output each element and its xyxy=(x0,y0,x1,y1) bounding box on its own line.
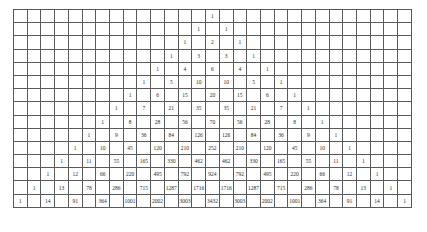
empty-cell xyxy=(41,155,55,168)
empty-cell xyxy=(356,141,370,154)
empty-cell xyxy=(274,23,288,36)
triangle-value-cell: 3 xyxy=(219,49,233,62)
empty-cell xyxy=(27,10,41,23)
triangle-value-cell: 924 xyxy=(206,168,220,181)
triangle-row: 121 xyxy=(14,36,412,49)
empty-cell xyxy=(55,115,69,128)
triangle-row: 14641 xyxy=(14,62,412,75)
empty-cell xyxy=(384,10,398,23)
empty-cell xyxy=(343,49,357,62)
empty-cell xyxy=(329,141,343,154)
empty-cell xyxy=(233,23,247,36)
empty-cell xyxy=(329,115,343,128)
triangle-value-cell: 35 xyxy=(192,102,206,115)
empty-cell xyxy=(343,36,357,49)
empty-cell xyxy=(398,155,412,168)
triangle-value-cell: 55 xyxy=(302,155,316,168)
empty-cell xyxy=(110,115,124,128)
empty-cell xyxy=(356,194,370,207)
triangle-value-cell: 1716 xyxy=(219,181,233,194)
empty-cell xyxy=(260,155,274,168)
empty-cell xyxy=(96,49,110,62)
triangle-value-cell: 1001 xyxy=(288,194,302,207)
empty-cell xyxy=(27,75,41,88)
empty-cell xyxy=(96,62,110,75)
triangle-value-cell: 715 xyxy=(137,181,151,194)
empty-cell xyxy=(302,89,316,102)
empty-cell xyxy=(370,128,384,141)
empty-cell xyxy=(343,23,357,36)
triangle-value-cell: 6 xyxy=(151,89,165,102)
triangle-value-cell: 1 xyxy=(68,141,82,154)
empty-cell xyxy=(233,75,247,88)
empty-cell xyxy=(260,128,274,141)
triangle-row: 11378286715128717161716128771528678131 xyxy=(14,181,412,194)
empty-cell xyxy=(288,181,302,194)
empty-cell xyxy=(302,62,316,75)
empty-cell xyxy=(137,141,151,154)
empty-cell xyxy=(41,10,55,23)
triangle-value-cell: 120 xyxy=(260,141,274,154)
triangle-value-cell: 11 xyxy=(329,155,343,168)
triangle-value-cell: 9 xyxy=(110,128,124,141)
empty-cell xyxy=(302,49,316,62)
empty-cell xyxy=(356,102,370,115)
triangle-value-cell: 1 xyxy=(178,36,192,49)
triangle-value-cell: 36 xyxy=(274,128,288,141)
triangle-value-cell: 1 xyxy=(315,115,329,128)
empty-cell xyxy=(370,102,384,115)
empty-cell xyxy=(356,168,370,181)
empty-cell xyxy=(96,23,110,36)
empty-cell xyxy=(27,102,41,115)
empty-cell xyxy=(302,75,316,88)
triangle-row: 1104512021025221012045101 xyxy=(14,141,412,154)
triangle-value-cell: 1 xyxy=(398,194,412,207)
empty-cell xyxy=(356,89,370,102)
empty-cell xyxy=(68,10,82,23)
empty-cell xyxy=(164,89,178,102)
empty-cell xyxy=(247,194,261,207)
empty-cell xyxy=(123,155,137,168)
empty-cell xyxy=(14,102,28,115)
empty-cell xyxy=(110,141,124,154)
pascal-triangle-grid: 1111211331146411510105116152015611721353… xyxy=(13,9,412,208)
empty-cell xyxy=(398,168,412,181)
empty-cell xyxy=(178,49,192,62)
empty-cell xyxy=(398,10,412,23)
empty-cell xyxy=(68,115,82,128)
empty-cell xyxy=(178,75,192,88)
empty-cell xyxy=(14,62,28,75)
empty-cell xyxy=(219,10,233,23)
empty-cell xyxy=(14,49,28,62)
empty-cell xyxy=(178,155,192,168)
empty-cell xyxy=(370,155,384,168)
empty-cell xyxy=(233,102,247,115)
empty-cell xyxy=(68,49,82,62)
triangle-value-cell: 1716 xyxy=(192,181,206,194)
empty-cell xyxy=(178,181,192,194)
empty-cell xyxy=(55,62,69,75)
empty-cell xyxy=(356,62,370,75)
triangle-value-cell: 10 xyxy=(192,75,206,88)
triangle-value-cell: 15 xyxy=(178,89,192,102)
empty-cell xyxy=(206,181,220,194)
empty-cell xyxy=(55,49,69,62)
triangle-row: 18285670562881 xyxy=(14,115,412,128)
triangle-value-cell: 1 xyxy=(329,128,343,141)
triangle-value-cell: 10 xyxy=(315,141,329,154)
triangle-value-cell: 66 xyxy=(315,168,329,181)
empty-cell xyxy=(219,141,233,154)
empty-cell xyxy=(398,181,412,194)
empty-cell xyxy=(137,23,151,36)
triangle-value-cell: 462 xyxy=(219,155,233,168)
triangle-row: 1 xyxy=(14,10,412,23)
triangle-value-cell: 1287 xyxy=(247,181,261,194)
triangle-value-cell: 252 xyxy=(206,141,220,154)
triangle-value-cell: 120 xyxy=(151,141,165,154)
empty-cell xyxy=(110,89,124,102)
empty-cell xyxy=(96,10,110,23)
empty-cell xyxy=(68,75,82,88)
triangle-value-cell: 35 xyxy=(219,102,233,115)
triangle-value-cell: 14 xyxy=(41,194,55,207)
empty-cell xyxy=(96,89,110,102)
